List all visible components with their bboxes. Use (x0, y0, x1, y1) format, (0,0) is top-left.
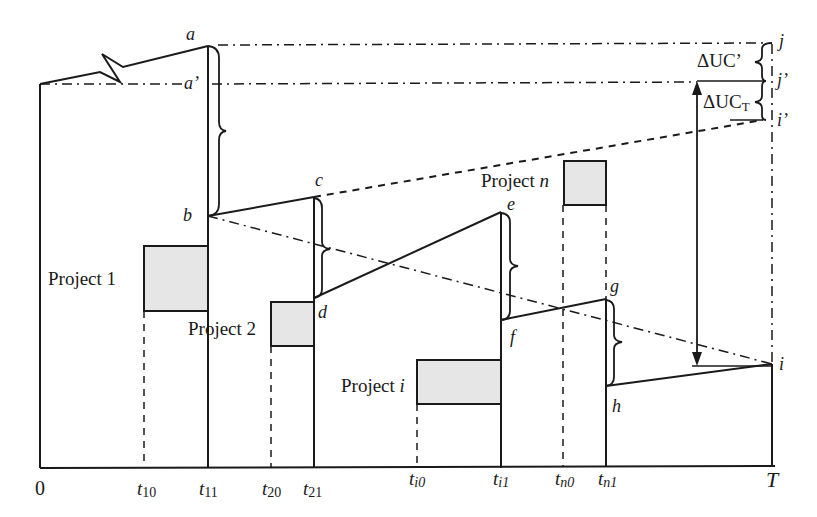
project-i-label: Project i (341, 375, 405, 396)
project-n-box (564, 161, 606, 205)
delta-uc-t-label: ΔUCT (703, 91, 750, 114)
tick-t11: t11 (199, 478, 218, 500)
time-axis (40, 466, 775, 468)
point-label-f: f (510, 327, 518, 347)
tick-ti0: ti0 (409, 468, 425, 490)
point-label-d: d (318, 302, 328, 322)
brace-e-f (501, 213, 518, 320)
point-label-e: e (507, 194, 515, 214)
tick-t21: t21 (303, 478, 322, 500)
project-1-label: Project 1 (48, 268, 116, 289)
point-label-g: g (610, 276, 619, 296)
segment-start-to-a (40, 46, 208, 84)
brace-c-d (314, 198, 330, 298)
point-label-c: c (315, 170, 323, 190)
point-label-j: j (777, 31, 784, 51)
point-label-i-prime: i’ (777, 110, 788, 130)
project-n-label: Project n (481, 170, 549, 191)
project-2-box (271, 302, 314, 346)
tick-t10: t10 (137, 478, 156, 500)
project-2-label: Project 2 (188, 318, 256, 339)
brace-delta-uc-prime (755, 43, 772, 81)
dashdot-a-prime-right (212, 82, 697, 84)
tick-tn0: tn0 (555, 468, 574, 490)
project-1-box (144, 246, 208, 311)
axis-end-label: T (766, 467, 780, 492)
segment-f-to-g (501, 299, 606, 320)
project-i-box (417, 360, 501, 404)
axis-origin-label: 0 (35, 477, 45, 499)
segment-b-to-c (208, 197, 314, 216)
double-arrow-delta (692, 81, 702, 366)
point-label-a: a (186, 24, 195, 44)
point-label-h: h (612, 396, 621, 416)
tick-tn1: tn1 (598, 468, 617, 490)
point-label-a-prime: a’ (184, 73, 199, 93)
dashdot-a-to-j (218, 43, 763, 45)
tick-ti1: ti1 (493, 468, 509, 490)
point-label-b: b (183, 205, 192, 225)
point-label-i: i (779, 354, 784, 374)
tick-t20: t20 (262, 478, 281, 500)
brace-g-h (606, 300, 622, 386)
delta-uc-prime-label: ΔUC’ (697, 50, 742, 71)
point-label-j-prime: j’ (775, 70, 788, 90)
brace-delta-uc-t (755, 81, 766, 120)
segment-h-to-i (606, 364, 772, 386)
brace-a-b (208, 46, 226, 216)
inventory-diagram: a a’ b c d e f g h i i’ j j’ ΔUC’ ΔUCT P… (0, 0, 817, 517)
